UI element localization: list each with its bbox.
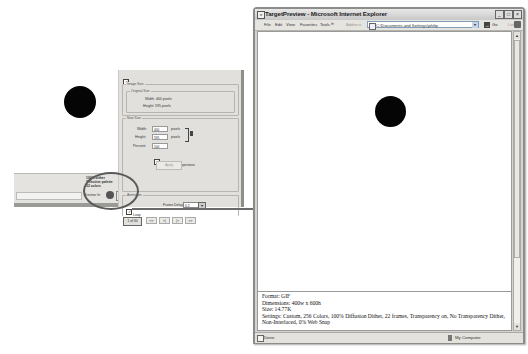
chevron-down-icon[interactable]: ▾: [472, 22, 478, 28]
ie-window-title: TargetPreview - Microsoft Internet Explo…: [265, 10, 387, 17]
menu-favorites[interactable]: Favorites: [300, 22, 317, 27]
frame-navigation: << <| |> >>: [146, 217, 206, 224]
highlight-ellipse: [83, 172, 139, 210]
menu-tools[interactable]: Tools: [320, 22, 330, 27]
preview-black-circle: [375, 96, 406, 127]
page-icon: [369, 23, 376, 30]
ie-page-content: Format: GIF Dimensions: 400w x 600h Size…: [257, 31, 512, 331]
animation-group: Animation ✓Loop Frame Delay: 0.2 ▾: [122, 195, 239, 216]
previous-frame-button[interactable]: <|: [159, 217, 170, 224]
address-label: Address: [346, 22, 361, 27]
menu-file[interactable]: File: [264, 22, 271, 27]
next-frame-button[interactable]: |>: [172, 217, 183, 224]
info-size: Size: 14.77K: [262, 306, 508, 313]
maximize-button[interactable]: □: [504, 10, 513, 19]
image-info-box: Format: GIF Dimensions: 400w x 600h Size…: [258, 291, 512, 331]
frame-counter: 1 of 30: [123, 217, 142, 226]
scroll-up-arrow-icon[interactable]: ▲: [514, 32, 520, 39]
new-size-group: New Size Width: 400 pixels Height: 595 p…: [122, 118, 239, 192]
address-bar[interactable]: C:\Documents and Settings\philip ▾: [367, 21, 479, 28]
percent-input[interactable]: 100: [152, 143, 168, 149]
info-dimensions: Dimensions: 400w x 600h: [262, 300, 508, 307]
original-width: Width: 400 pixels: [145, 97, 172, 101]
ie-toolbar: File Edit View Favorites Tools » Address…: [255, 20, 523, 31]
first-frame-button[interactable]: <<: [146, 217, 157, 224]
height-unit: pixels: [171, 135, 180, 139]
ps-status-field: [16, 192, 82, 200]
ps-preview-black-circle: [64, 86, 96, 118]
last-frame-button[interactable]: >>: [185, 217, 196, 224]
width-input[interactable]: 400: [152, 126, 168, 132]
status-text: Done: [264, 335, 274, 340]
page-done-icon: [257, 335, 264, 342]
security-zone: My Computer: [455, 335, 481, 340]
ie-window: e TargetPreview - Microsoft Internet Exp…: [253, 7, 525, 344]
apply-button[interactable]: Apply: [156, 161, 182, 170]
scroll-down-arrow-icon[interactable]: ▼: [514, 323, 520, 330]
width-unit: pixels: [171, 127, 180, 131]
menu-edit[interactable]: Edit: [275, 22, 282, 27]
original-height: Height: 595 pixels: [143, 104, 171, 108]
ie-status-bar: Done My Computer: [255, 332, 523, 343]
info-settings: Settings: Custom, 256 Colors, 100% Diffu…: [262, 313, 508, 326]
new-size-label: New Size: [126, 116, 142, 120]
go-button[interactable]: Go: [492, 22, 498, 27]
frame-delay-label: Frame Delay:: [163, 203, 184, 207]
constrain-link-bracket: [185, 128, 189, 142]
scroll-thumb[interactable]: [514, 40, 520, 258]
image-size-group: Image Size Original Size Width: 400 pixe…: [122, 84, 239, 116]
info-format: Format: GIF: [262, 293, 508, 300]
width-label: Width:: [137, 127, 147, 131]
height-label: Height:: [135, 135, 146, 139]
computer-zone-icon: [448, 335, 452, 341]
ps-preview-canvas: [0, 60, 118, 173]
original-size-group: Original Size Width: 400 pixels Height: …: [126, 91, 235, 113]
close-button[interactable]: ×: [513, 10, 522, 19]
percent-label: Percent:: [133, 144, 146, 148]
windows-logo-icon: [514, 21, 521, 28]
ie-page-icon: e: [257, 11, 265, 19]
image-size-group-label: Image Size: [126, 82, 145, 86]
menu-overflow-chevron[interactable]: »: [331, 20, 334, 26]
height-input[interactable]: 595: [152, 134, 168, 140]
link-icon: [190, 131, 193, 136]
vertical-scrollbar[interactable]: ▲ ▼: [513, 31, 521, 331]
original-size-label: Original Size: [130, 89, 151, 93]
minimize-button[interactable]: _: [495, 10, 504, 19]
go-arrow-icon[interactable]: →: [484, 22, 490, 28]
address-input[interactable]: C:\Documents and Settings\philip: [376, 23, 438, 28]
menu-view[interactable]: View: [286, 22, 295, 27]
